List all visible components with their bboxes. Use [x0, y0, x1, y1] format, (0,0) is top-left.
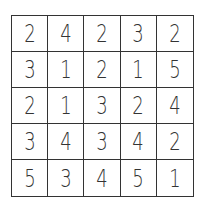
grid-cell[interactable]: 5 — [157, 52, 193, 88]
grid-cell[interactable]: 1 — [48, 88, 84, 124]
grid-cell[interactable]: 4 — [84, 160, 120, 196]
grid-cell[interactable]: 3 — [84, 88, 120, 124]
grid-cell[interactable]: 2 — [121, 88, 157, 124]
grid-cell[interactable]: 1 — [157, 160, 193, 196]
grid-cell[interactable]: 4 — [121, 124, 157, 160]
grid-cell[interactable]: 2 — [157, 124, 193, 160]
grid-cell[interactable]: 5 — [121, 160, 157, 196]
grid-cell[interactable]: 2 — [12, 88, 48, 124]
grid-cell[interactable]: 3 — [12, 124, 48, 160]
grid-cell[interactable]: 2 — [84, 52, 120, 88]
grid-cell[interactable]: 1 — [121, 52, 157, 88]
grid-cell[interactable]: 3 — [84, 124, 120, 160]
number-grid: 2 4 2 3 2 3 1 2 1 5 2 1 3 2 4 3 4 3 4 2 … — [11, 15, 194, 197]
grid-cell[interactable]: 4 — [48, 124, 84, 160]
grid-cell[interactable]: 3 — [121, 16, 157, 52]
grid-cell[interactable]: 3 — [48, 160, 84, 196]
grid-cell[interactable]: 2 — [12, 16, 48, 52]
grid-cell[interactable]: 4 — [48, 16, 84, 52]
grid-cell[interactable]: 1 — [48, 52, 84, 88]
grid-cell[interactable]: 2 — [157, 16, 193, 52]
grid-cell[interactable]: 5 — [12, 160, 48, 196]
grid-cell[interactable]: 3 — [12, 52, 48, 88]
grid-cell[interactable]: 4 — [157, 88, 193, 124]
grid-cell[interactable]: 2 — [84, 16, 120, 52]
